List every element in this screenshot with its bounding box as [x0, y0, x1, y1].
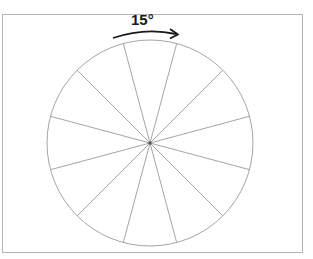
- spoke-line: [150, 143, 177, 243]
- spoke-line: [150, 143, 250, 170]
- spoke-line: [51, 116, 151, 143]
- spoke-line: [150, 70, 223, 143]
- spoke-line: [150, 44, 177, 144]
- spoke-line: [77, 143, 150, 216]
- spoke-line: [51, 143, 151, 170]
- spoke-line: [123, 44, 150, 144]
- spoke-line: [123, 143, 150, 243]
- spoke-line: [77, 70, 150, 143]
- center-point: [148, 141, 151, 144]
- spoke-line: [150, 143, 223, 216]
- rotation-arrow-icon: [113, 29, 178, 39]
- wheel-diagram: [0, 0, 313, 259]
- spoke-line: [150, 116, 250, 143]
- angle-label: 15°: [131, 11, 154, 28]
